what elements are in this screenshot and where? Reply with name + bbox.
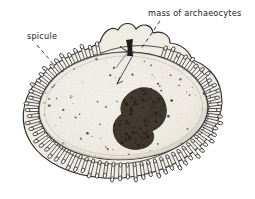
label-spicule: spicule — [27, 32, 57, 40]
gemmule-illustration — [0, 0, 255, 199]
gemmule-figure: spicule mass of archaeocytes — [0, 0, 255, 199]
leader-line-spicule — [37, 45, 55, 66]
label-mass-of-archaeocytes: mass of archaeocytes — [148, 9, 241, 17]
